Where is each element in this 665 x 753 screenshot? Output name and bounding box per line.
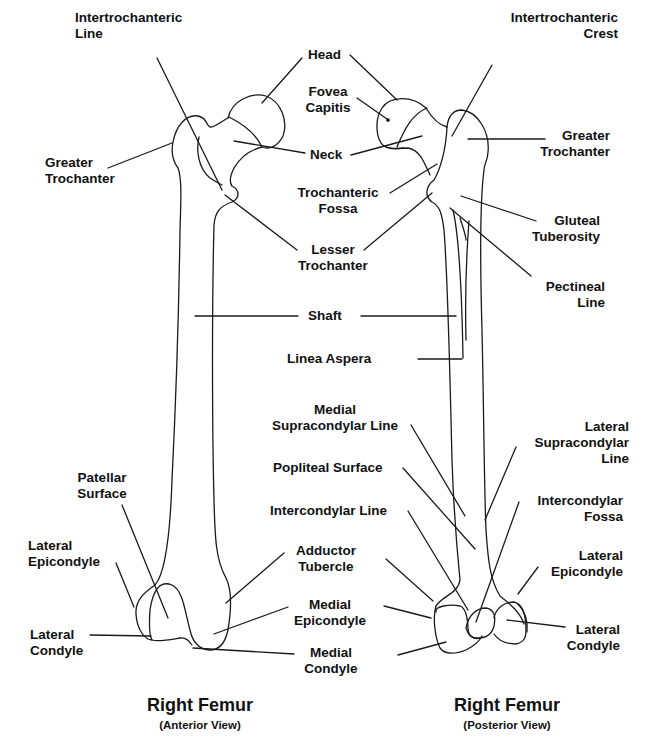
label-trochanteric-fossa: Trochanteric Fossa <box>290 185 386 217</box>
label-medial-supracondylar-line: Medial Supracondylar Line <box>260 402 410 434</box>
label-lateral-supracondylar-line: Lateral Supracondylar Line <box>512 419 629 467</box>
label-lateral-epicondyle-anterior: Lateral Epicondyle <box>28 538 100 570</box>
label-medial-condyle: Medial Condyle <box>296 645 366 677</box>
label-greater-trochanter-anterior: Greater Trochanter <box>45 155 115 187</box>
label-adductor-tubercle: Adductor Tubercle <box>285 543 367 575</box>
caption-subtitle-posterior: (Posterior View) <box>407 718 607 732</box>
label-fovea-capitis: Fovea Capitis <box>302 84 354 116</box>
label-popliteal-surface: Popliteal Surface <box>273 460 383 476</box>
label-pectineal-line: Pectineal Line <box>530 279 605 311</box>
label-head: Head <box>308 47 341 63</box>
label-lesser-trochanter: Lesser Trochanter <box>298 242 368 274</box>
posterior-femur-outline <box>377 99 527 654</box>
label-intercondylar-fossa: Intercondylar Fossa <box>520 493 623 525</box>
label-lateral-epicondyle-posterior: Lateral Epicondyle <box>540 548 623 580</box>
label-shaft: Shaft <box>308 308 342 324</box>
caption-title-anterior: Right Femur <box>100 695 300 715</box>
label-intertrochanteric-crest: Intertrochanteric Crest <box>490 10 618 42</box>
label-medial-epicondyle: Medial Epicondyle <box>288 597 372 629</box>
label-neck: Neck <box>310 147 342 163</box>
label-gluteal-tuberosity: Gluteal Tuberosity <box>520 213 600 245</box>
label-lateral-condyle-anterior: Lateral Condyle <box>30 627 83 659</box>
caption-subtitle-anterior: (Anterior View) <box>100 718 300 732</box>
label-intertrochanteric-line: Intertrochanteric Line <box>75 10 182 42</box>
label-patellar-surface: Patellar Surface <box>72 470 132 502</box>
anterior-femur-outline <box>136 95 285 650</box>
label-linea-aspera: Linea Aspera <box>287 351 371 367</box>
caption-title-posterior: Right Femur <box>407 695 607 715</box>
label-lateral-condyle-posterior: Lateral Condyle <box>560 622 620 654</box>
label-intercondylar-line: Intercondylar Line <box>270 503 387 519</box>
label-greater-trochanter-posterior: Greater Trochanter <box>530 128 610 160</box>
